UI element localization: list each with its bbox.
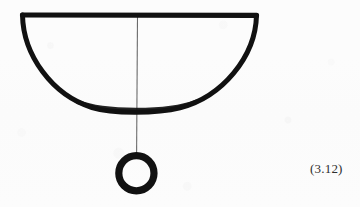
vertical-thread-line xyxy=(137,16,138,153)
equation-number: (3.12) xyxy=(310,161,343,177)
bowl-arc xyxy=(23,15,257,112)
figure-page: (3.12) xyxy=(0,0,360,207)
hanging-ring-circle xyxy=(119,156,154,191)
figure-drawing xyxy=(0,0,360,207)
